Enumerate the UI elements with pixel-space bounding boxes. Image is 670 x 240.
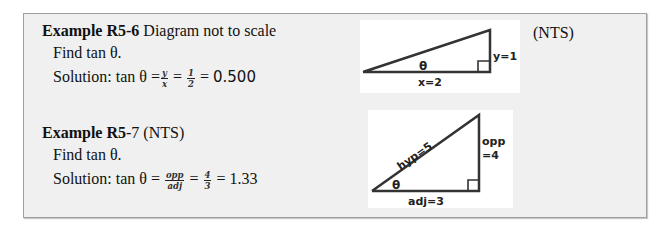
equals-sign: =	[200, 68, 209, 85]
fraction-1-over-2: 12	[187, 68, 195, 89]
example-r5-6-prompt: Find tan θ.	[53, 44, 122, 62]
height-label-line1: opp	[482, 135, 505, 148]
example-label: Example R5	[42, 124, 126, 141]
example-subtitle: Diagram not to scale	[139, 22, 276, 39]
triangle-diagram-r5-6: θ x=2 y=1	[360, 20, 520, 93]
example-r5-6-solution: Solution: tan θ =yx = 12 = 0.500	[53, 68, 256, 89]
solution-result: 1.33	[229, 170, 257, 187]
equals-sign: =	[173, 68, 182, 85]
height-label-line2: =4	[482, 149, 499, 162]
height-label: y=1	[493, 50, 517, 63]
solution-result: 0.500	[213, 68, 256, 86]
angle-theta-label: θ	[419, 59, 427, 73]
example-r5-7-title: Example R5-7 (NTS)	[42, 124, 184, 142]
base-label: adj=3	[408, 195, 444, 208]
example-r5-7-solution: Solution: tan θ = oppadj = 43 = 1.33	[53, 170, 257, 191]
fraction-y-over-x: yx	[161, 68, 168, 89]
right-triangle-icon: θ adj=3 opp =4 hyp=5	[368, 110, 513, 208]
equals-sign: =	[189, 170, 198, 187]
equals-sign: =	[216, 170, 225, 187]
right-triangle-icon: θ x=2 y=1	[360, 20, 520, 93]
solution-prefix: Solution: tan θ =	[53, 68, 160, 85]
hypotenuse-label: hyp=5	[395, 140, 435, 173]
example-subtitle: -7 (NTS)	[126, 124, 184, 141]
example-label: Example R5-6	[42, 22, 139, 39]
example-r5-6-title: Example R5-6 Diagram not to scale	[42, 22, 276, 40]
nts-note: (NTS)	[533, 24, 574, 42]
example-r5-7-prompt: Find tan θ.	[53, 146, 122, 164]
triangle-diagram-r5-7: θ adj=3 opp =4 hyp=5	[368, 110, 513, 208]
base-label: x=2	[418, 76, 442, 89]
solution-prefix: Solution: tan θ =	[53, 170, 160, 187]
fraction-4-over-3: 43	[204, 170, 212, 191]
fraction-opp-over-adj: oppadj	[165, 170, 185, 191]
angle-theta-label: θ	[392, 178, 400, 192]
